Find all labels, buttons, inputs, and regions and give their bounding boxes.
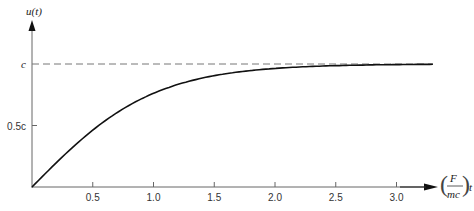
x-tick-label: 1.0 <box>147 192 161 203</box>
x-axis-label: ( F mc ) t <box>440 171 473 200</box>
x-tick-label: 2.5 <box>329 192 343 203</box>
x-tick-label: 0.5 <box>86 192 100 203</box>
y-axis-label: u(t) <box>26 5 42 18</box>
y-tick-label: 0.5c <box>7 121 26 132</box>
x-tick-label: 3.0 <box>390 192 404 203</box>
y-ticks: 0.5cc <box>7 58 37 132</box>
svg-text:F: F <box>449 172 457 184</box>
x-axis-arrow-icon <box>424 184 438 191</box>
x-tick-label: 2.0 <box>268 192 282 203</box>
svg-text:t: t <box>469 181 473 193</box>
velocity-curve <box>32 64 433 187</box>
x-ticks: 0.51.01.52.02.53.0 <box>86 182 404 203</box>
svg-text:mc: mc <box>447 188 460 200</box>
chart: 0.51.01.52.02.53.0 0.5cc u(t) ( F mc ) t <box>0 0 474 211</box>
y-tick-label: c <box>21 58 26 70</box>
x-tick-label: 1.5 <box>207 192 221 203</box>
y-axis-arrow-icon <box>29 20 36 31</box>
